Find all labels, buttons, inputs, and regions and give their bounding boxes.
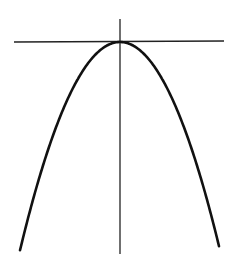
- diagram-svg: [0, 0, 242, 260]
- parabola-diagram: [0, 0, 242, 260]
